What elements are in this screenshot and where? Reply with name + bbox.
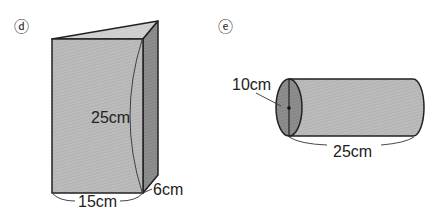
cylinder-body: [289, 79, 424, 136]
prism-side-face: [143, 21, 158, 193]
prism-top-face: [52, 21, 158, 39]
center-dot: [287, 106, 291, 110]
figure-d-prism: ⓓ 25cm 15cm 6cm: [14, 18, 183, 210]
length-label: 25cm: [333, 143, 372, 160]
figure-e-cylinder: ⓔ 10cm 25cm: [218, 18, 424, 160]
figure-d-marker: ⓓ: [14, 18, 29, 35]
depth-label: 6cm: [153, 181, 183, 198]
diagram-canvas: ⓓ 25cm 15cm 6cm ⓔ 10cm 25cm: [0, 0, 445, 220]
height-label: 25cm: [91, 109, 130, 126]
length-dimension-arc: [289, 137, 327, 145]
figure-e-marker: ⓔ: [218, 18, 233, 35]
diameter-label: 10cm: [232, 76, 271, 93]
base-dimension-arc: [53, 194, 75, 201]
base-label: 15cm: [78, 193, 117, 210]
